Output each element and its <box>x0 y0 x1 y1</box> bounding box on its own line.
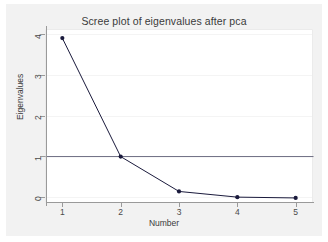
x-tick-label-5: 5 <box>286 208 306 217</box>
chart-title: Scree plot of eigenvalues after pca <box>6 15 322 27</box>
x-tick-label-3: 3 <box>169 208 189 217</box>
y-tick-label-3: 3 <box>35 75 44 80</box>
y-tick-label-0: 0 <box>35 196 44 201</box>
y-tick-label-1: 1 <box>35 156 44 161</box>
plot-region <box>46 30 312 202</box>
x-axis-title: Number <box>6 219 322 228</box>
y-tick-label-4: 4 <box>35 34 44 39</box>
y-axis-line <box>46 26 47 206</box>
data-point-2 <box>119 154 123 158</box>
y-axis-title: Eigenvalues <box>16 74 25 120</box>
scree-plot-screenshot: Scree plot of eigenvalues after pca 0123… <box>0 0 328 242</box>
x-tick-label-2: 2 <box>111 208 131 217</box>
series-layer <box>46 30 312 202</box>
series-line-eigenvalues <box>62 38 295 198</box>
plot-inner <box>46 30 312 202</box>
y-tick-label-2: 2 <box>35 115 44 120</box>
data-point-4 <box>235 195 239 199</box>
data-point-1 <box>60 36 64 40</box>
data-point-3 <box>177 189 181 193</box>
data-point-5 <box>294 196 298 200</box>
x-tick-label-1: 1 <box>52 208 72 217</box>
x-tick-label-4: 4 <box>227 208 247 217</box>
stata-graph-canvas: Scree plot of eigenvalues after pca 0123… <box>6 4 322 236</box>
x-axis-line <box>46 202 314 203</box>
